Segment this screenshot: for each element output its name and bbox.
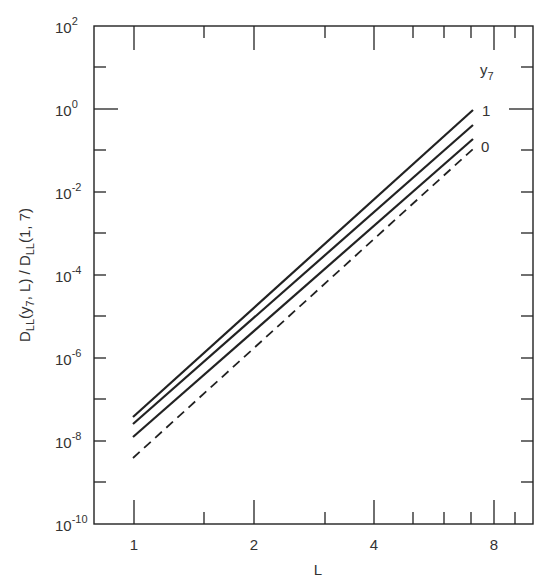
series-dashed xyxy=(133,149,473,458)
svg-text:8: 8 xyxy=(490,536,498,553)
line-label-1: 1 xyxy=(482,102,490,119)
svg-text:4: 4 xyxy=(370,536,378,553)
svg-text:10-4: 10-4 xyxy=(55,264,81,285)
x-ticks xyxy=(134,26,515,524)
line-label-0: 0 xyxy=(481,138,489,155)
y-axis-label: DLL(y7, L) / DLL(1, 7) xyxy=(16,208,36,342)
y-tick-labels: 102 100 10-2 10-4 10-6 10-8 10-10 xyxy=(55,15,88,534)
legend-title: y7 xyxy=(480,61,494,82)
plot-frame xyxy=(94,26,533,524)
svg-text:102: 102 xyxy=(55,15,78,36)
svg-text:100: 100 xyxy=(55,98,78,119)
svg-text:1: 1 xyxy=(130,536,138,553)
series-2 xyxy=(133,125,473,424)
x-tick-labels: 1 2 4 8 xyxy=(130,536,498,553)
svg-text:10-6: 10-6 xyxy=(55,347,81,368)
x-axis-label: L xyxy=(314,561,322,578)
svg-text:10-10: 10-10 xyxy=(55,513,88,534)
chart: 102 100 10-2 10-4 10-6 10-8 10-10 1 2 4 … xyxy=(0,0,545,582)
series-y7-1 xyxy=(133,110,473,417)
svg-text:2: 2 xyxy=(250,536,258,553)
series-lines xyxy=(133,110,473,458)
svg-text:10-8: 10-8 xyxy=(55,430,81,451)
series-y7-0 xyxy=(133,139,473,437)
svg-text:10-2: 10-2 xyxy=(55,181,81,202)
